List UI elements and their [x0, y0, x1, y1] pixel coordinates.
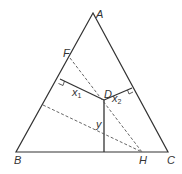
label-a: A: [96, 9, 103, 20]
segment-x1: [60, 79, 104, 100]
label-x1: x1: [72, 87, 81, 99]
label-c: C: [167, 155, 175, 166]
x1-subscript: 1: [78, 92, 82, 99]
label-h: H: [139, 155, 147, 166]
label-b: B: [14, 155, 21, 166]
dashed-line-to-h: [43, 105, 142, 152]
triangle-diagram: A B C H D F x1 x2 y: [0, 0, 182, 174]
triangle-abc: [16, 13, 168, 152]
diagram-svg: [0, 0, 182, 174]
label-x2: x2: [112, 93, 121, 105]
dashed-line-fh: [70, 58, 142, 152]
x2-subscript: 2: [118, 98, 122, 105]
label-d: D: [104, 89, 112, 100]
label-y: y: [96, 119, 102, 130]
label-f: F: [63, 48, 70, 59]
right-angle-mark-ab: [59, 81, 65, 86]
right-angle-mark-ac: [128, 90, 134, 94]
